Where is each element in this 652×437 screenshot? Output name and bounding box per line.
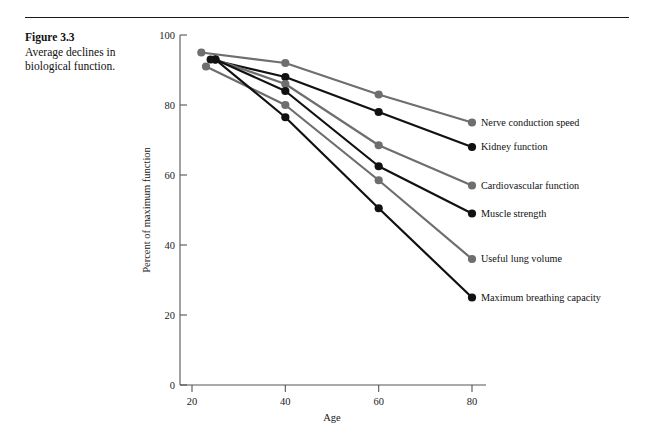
x-tick-label: 80 <box>467 396 478 407</box>
data-point-marker <box>468 118 476 126</box>
data-point-marker <box>211 55 219 63</box>
data-point-marker <box>281 87 289 95</box>
data-point-marker <box>468 209 476 217</box>
y-tick-label: 20 <box>165 310 176 321</box>
series-line <box>215 60 472 186</box>
data-point-marker <box>468 143 476 151</box>
data-point-marker <box>202 62 210 70</box>
series-label-maximum-breathing-capacity: Maximum breathing capacity <box>481 292 601 303</box>
series-label-cardiovascular-function: Cardiovascular function <box>481 180 579 191</box>
data-point-marker <box>375 108 383 116</box>
data-point-marker <box>281 59 289 67</box>
chart-plot-area: 02040608010020406080AgePercent of maximu… <box>0 0 652 437</box>
series-line <box>201 53 472 123</box>
data-point-marker <box>375 204 383 212</box>
series-label-nerve-conduction-speed: Nerve conduction speed <box>481 117 579 128</box>
data-point-marker <box>468 293 476 301</box>
line-chart-svg: 02040608010020406080AgePercent of maximu… <box>0 0 652 437</box>
x-tick-label: 20 <box>187 396 198 407</box>
series-label-muscle-strength: Muscle strength <box>481 208 546 219</box>
x-tick-label: 40 <box>280 396 291 407</box>
data-point-marker <box>281 73 289 81</box>
y-tick-label: 100 <box>159 30 175 41</box>
data-point-marker <box>375 141 383 149</box>
data-point-marker <box>375 176 383 184</box>
figure-container: Figure 3.3 Average declines in biologica… <box>0 0 652 437</box>
data-point-marker <box>375 162 383 170</box>
y-axis-title: Percent of maximum function <box>141 146 152 272</box>
data-point-marker <box>281 80 289 88</box>
y-tick-label: 60 <box>165 170 176 181</box>
data-point-marker <box>197 48 205 56</box>
series-label-kidney-function: Kidney function <box>481 141 548 152</box>
tick-label-layer: 02040608010020406080AgePercent of maximu… <box>141 30 477 423</box>
x-tick-label: 60 <box>373 396 384 407</box>
data-point-marker <box>281 101 289 109</box>
data-point-marker <box>468 255 476 263</box>
y-tick-label: 0 <box>170 380 175 391</box>
axis-layer <box>180 35 486 392</box>
series-label-useful-lung-volume: Useful lung volume <box>481 253 562 264</box>
series-line <box>206 67 472 260</box>
series-line <box>215 60 472 298</box>
series-layer <box>197 48 476 301</box>
y-tick-label: 80 <box>165 100 176 111</box>
x-axis-title: Age <box>323 412 341 423</box>
y-tick-label: 40 <box>165 240 176 251</box>
data-point-marker <box>468 181 476 189</box>
data-point-marker <box>281 113 289 121</box>
data-point-marker <box>375 90 383 98</box>
